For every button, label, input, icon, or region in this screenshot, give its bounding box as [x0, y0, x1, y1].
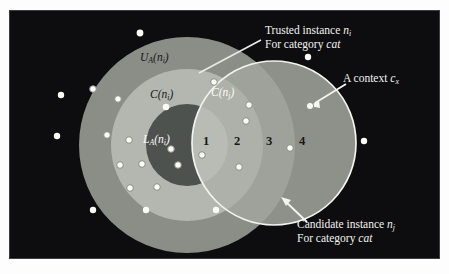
- context-dot: [236, 164, 243, 171]
- context-dot: [90, 86, 97, 93]
- context-dot: [211, 79, 218, 86]
- context-dot: [213, 207, 219, 213]
- region-number-2: 2: [234, 134, 240, 149]
- context-dot: [127, 185, 134, 192]
- context-dot: [104, 132, 111, 139]
- context-dot-cx: [306, 102, 313, 109]
- context-dot: [361, 138, 367, 144]
- context-dot: [137, 30, 144, 37]
- candidate-instance-line1: Candidate instance nj: [297, 218, 395, 232]
- context-dot: [154, 184, 161, 191]
- context-dot: [115, 96, 122, 103]
- figure-root: UA(ni) C(ni) C(nj) LA(ni) 1 2 3 4 Truste…: [0, 0, 449, 274]
- context-dot: [90, 207, 96, 213]
- context-dot: [287, 145, 294, 152]
- candidate-instance-line2: For category cat: [297, 232, 395, 246]
- trusted-instance-line1: Trusted instance ni: [265, 24, 351, 38]
- candidate-instance-label: Candidate instance nj For category cat: [297, 218, 395, 246]
- context-dot: [163, 104, 170, 111]
- context-cx-label: A context cx: [343, 72, 399, 86]
- diagram-panel: UA(ni) C(ni) C(nj) LA(ni) 1 2 3 4 Truste…: [9, 10, 440, 259]
- context-dot: [246, 102, 253, 109]
- context-dot: [126, 137, 133, 144]
- context-dot: [175, 162, 182, 169]
- context-dot: [139, 161, 146, 168]
- region-number-1: 1: [203, 134, 209, 149]
- trusted-instance-label: Trusted instance ni For category cat: [265, 24, 351, 52]
- context-dot: [58, 92, 64, 98]
- context-dot: [143, 207, 149, 213]
- context-dot: [199, 152, 206, 159]
- set-label-UA-ni: UA(ni): [140, 51, 169, 65]
- context-dot: [117, 162, 124, 169]
- trusted-instance-line2: For category cat: [265, 38, 351, 52]
- set-label-C-ni: C(ni): [150, 88, 173, 102]
- context-dot: [54, 133, 60, 139]
- set-label-LA-ni: LA(ni): [143, 133, 170, 147]
- region-number-3: 3: [266, 134, 272, 149]
- context-dot: [305, 54, 311, 60]
- region-number-4: 4: [299, 134, 305, 149]
- context-dot: [243, 118, 250, 125]
- set-label-C-nj: C(nj): [211, 86, 234, 100]
